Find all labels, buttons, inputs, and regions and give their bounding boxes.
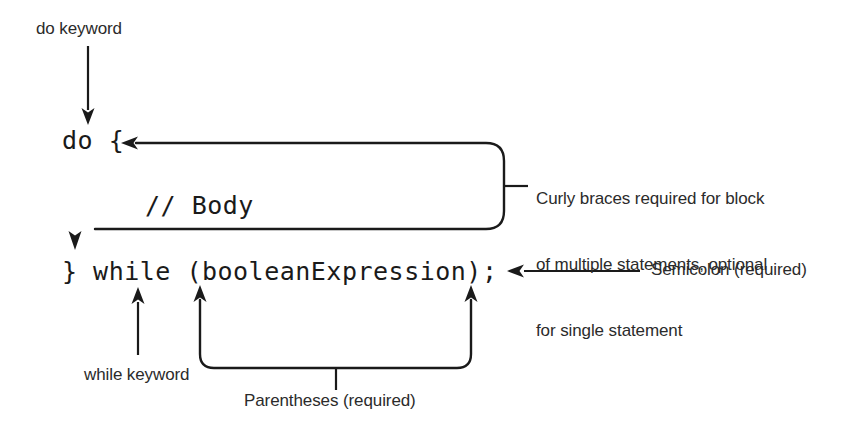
while-keyword-arrow bbox=[132, 287, 145, 355]
curly-braces-bracket bbox=[69, 137, 529, 251]
annotation-curly-braces-line-3: for single statement bbox=[536, 320, 767, 342]
annotation-while-keyword: while keyword bbox=[84, 364, 189, 386]
do-keyword-arrow bbox=[82, 46, 95, 125]
annotation-do-keyword: do keyword bbox=[36, 18, 122, 40]
code-line-do-open-brace: do { bbox=[62, 127, 124, 155]
annotation-parentheses: Parentheses (required) bbox=[244, 390, 416, 412]
code-line-body-comment: // Body bbox=[145, 192, 254, 220]
annotation-curly-braces-line-1: Curly braces required for block bbox=[536, 188, 767, 210]
annotation-semicolon: Semicolon (required) bbox=[651, 259, 807, 281]
do-while-syntax-diagram: do { // Body } while (booleanExpression)… bbox=[0, 0, 856, 433]
code-line-while-condition: } while (booleanExpression); bbox=[62, 258, 497, 286]
parentheses-bracket bbox=[194, 285, 478, 390]
